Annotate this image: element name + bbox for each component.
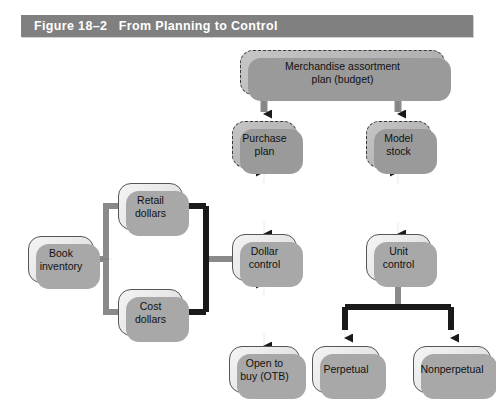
node-book-inventory[interactable]: Book inventory xyxy=(28,236,94,283)
node-unit-control[interactable]: Unit control xyxy=(366,234,431,281)
connector-dollar-control-to-dollar-branches xyxy=(182,206,232,312)
node-label: Purchase plan xyxy=(238,132,290,158)
node-perpetual[interactable]: Perpetual xyxy=(312,346,380,393)
node-merchandise-assortment-plan[interactable]: Merchandise assortment plan (budget) xyxy=(240,50,445,95)
flowchart-diagram: Merchandise assortment plan (budget) Pur… xyxy=(0,0,496,414)
node-nonperpetual[interactable]: Nonperpetual xyxy=(413,346,491,393)
figure-container: Figure 18–2 From Planning to Control xyxy=(0,0,496,414)
node-purchase-plan[interactable]: Purchase plan xyxy=(232,121,297,168)
node-label: Model stock xyxy=(380,132,417,158)
node-label: Book inventory xyxy=(36,247,87,273)
node-label: Open to buy (OTB) xyxy=(236,357,292,383)
node-label: Retail dollars xyxy=(131,194,170,220)
node-model-stock[interactable]: Model stock xyxy=(366,121,431,168)
node-open-to-buy[interactable]: Open to buy (OTB) xyxy=(229,346,300,393)
node-label: Perpetual xyxy=(320,363,373,376)
node-label: Dollar control xyxy=(245,245,285,271)
node-dollar-control[interactable]: Dollar control xyxy=(232,234,297,281)
connector-unit-control-to-unit-branches xyxy=(345,280,451,338)
node-label: Nonperpetual xyxy=(416,363,487,376)
node-retail-dollars[interactable]: Retail dollars xyxy=(118,183,183,230)
node-label: Merchandise assortment plan (budget) xyxy=(281,60,404,86)
node-label: Cost dollars xyxy=(131,300,170,326)
node-label: Unit control xyxy=(379,245,419,271)
node-cost-dollars[interactable]: Cost dollars xyxy=(118,289,183,336)
